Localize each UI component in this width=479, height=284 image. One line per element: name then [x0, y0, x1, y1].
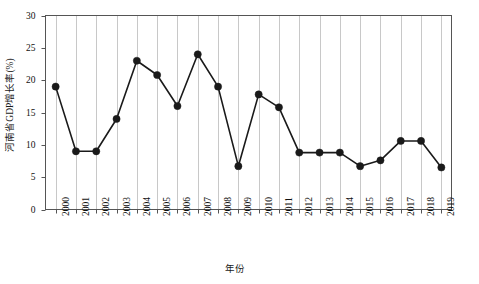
x-tick-label: 2000 [61, 197, 71, 216]
x-tick-label: 2019 [446, 197, 456, 216]
data-series-line [56, 54, 442, 167]
y-axis-ticks [42, 17, 46, 211]
y-tick-label: 5 [10, 172, 36, 182]
x-tick-label: 2014 [345, 197, 355, 216]
x-axis-title: 年份 [205, 261, 265, 275]
plot-frame [46, 16, 452, 210]
y-tick-label: 20 [10, 75, 36, 85]
x-tick-label: 2011 [284, 197, 294, 216]
y-tick-label: 25 [10, 43, 36, 53]
x-tick-label: 2018 [426, 197, 436, 216]
x-tick-label: 2007 [203, 197, 213, 216]
x-tick-label: 2002 [101, 197, 111, 216]
x-tick-label: 2017 [406, 197, 416, 216]
y-tick-label: 10 [10, 140, 36, 150]
x-tick-label: 2008 [223, 197, 233, 216]
x-tick-label: 2006 [182, 197, 192, 216]
x-tick-label: 2010 [264, 197, 274, 216]
data-point-markers [52, 51, 445, 171]
x-tick-label: 2013 [325, 197, 335, 216]
y-tick-label: 0 [10, 205, 36, 215]
x-tick-label: 2012 [304, 197, 314, 216]
x-tick-label: 2003 [122, 197, 132, 216]
y-tick-label: 30 [10, 11, 36, 21]
plot-area [0, 0, 479, 284]
gdp-growth-line-chart: 河南省GDP增长率(%) 年份 051015202530 20002001200… [0, 0, 479, 284]
x-tick-label: 2005 [162, 197, 172, 216]
x-tick-label: 2004 [142, 197, 152, 216]
x-tick-label: 2001 [81, 197, 91, 216]
x-tick-label: 2015 [365, 197, 375, 216]
y-tick-label: 15 [10, 108, 36, 118]
x-tick-label: 2016 [385, 197, 395, 216]
grid-lines [57, 16, 442, 210]
x-tick-label: 2009 [243, 197, 253, 216]
